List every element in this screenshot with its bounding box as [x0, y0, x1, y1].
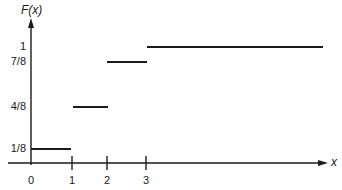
x-tick-label-2: 2	[100, 175, 114, 186]
y-tick-label-1: 1	[0, 41, 26, 52]
cdf-step-chart	[0, 0, 342, 190]
x-tick-label-0: 0	[24, 175, 38, 186]
y-axis-arrow-icon	[28, 18, 34, 28]
y-tick-label-4-8: 4/8	[0, 101, 26, 112]
y-axis-title: F(x)	[21, 4, 42, 16]
x-tick-label-1: 1	[65, 175, 79, 186]
x-axis-title: x	[331, 156, 337, 168]
x-tick-label-3: 3	[139, 175, 153, 186]
y-tick-label-1-8: 1/8	[0, 143, 26, 154]
y-tick-label-7-8: 7/8	[0, 56, 26, 67]
x-axis-arrow-icon	[318, 160, 328, 166]
